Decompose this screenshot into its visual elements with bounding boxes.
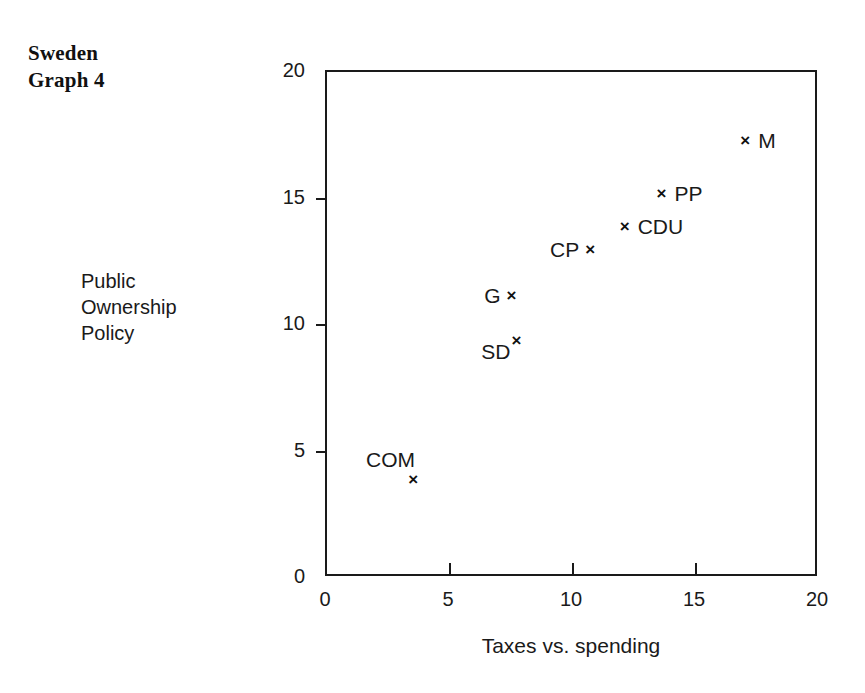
plot-area: ×COM×SD×G×CP×CDU×PP×M xyxy=(325,70,817,576)
data-point-marker-com: × xyxy=(408,471,418,488)
figure-title-line-2: Graph 4 xyxy=(28,67,105,94)
data-point-marker-cp: × xyxy=(585,241,595,258)
y-axis-title-line-3: Policy xyxy=(81,320,177,346)
x-axis-tick-label: 10 xyxy=(560,588,582,611)
data-point-label-cp: CP xyxy=(550,239,579,260)
y-axis-tick-label: 15 xyxy=(255,185,305,208)
data-point-label-cdu: CDU xyxy=(638,216,684,237)
y-axis-tick xyxy=(316,198,327,200)
x-axis-tick xyxy=(449,563,451,574)
figure-title: Sweden Graph 4 xyxy=(28,40,105,94)
x-axis-tick-label: 0 xyxy=(319,588,330,611)
y-axis-title-line-2: Ownership xyxy=(81,294,177,320)
data-point-label-pp: PP xyxy=(675,183,703,204)
data-point-marker-cdu: × xyxy=(620,218,630,235)
y-axis-tick xyxy=(316,324,327,326)
y-axis-tick-label: 10 xyxy=(255,312,305,335)
x-axis-tick-label: 20 xyxy=(806,588,828,611)
x-axis-tick-label: 5 xyxy=(442,588,453,611)
y-axis-tick xyxy=(316,451,327,453)
data-point-marker-g: × xyxy=(507,286,517,303)
data-point-label-sd: SD xyxy=(481,341,510,362)
y-axis-title-line-1: Public xyxy=(81,268,177,294)
data-point-marker-sd: × xyxy=(511,332,521,349)
y-axis-tick-label: 20 xyxy=(255,59,305,82)
data-point-marker-pp: × xyxy=(657,185,667,202)
scatter-plot-figure: Sweden Graph 4 Public Ownership Policy T… xyxy=(0,0,865,693)
x-axis-title: Taxes vs. spending xyxy=(325,634,817,658)
data-point-label-m: M xyxy=(758,130,776,151)
x-axis-tick xyxy=(572,563,574,574)
x-axis-tick-label: 15 xyxy=(683,588,705,611)
figure-title-line-1: Sweden xyxy=(28,40,105,67)
y-axis-tick-label: 0 xyxy=(255,565,305,588)
y-axis-title: Public Ownership Policy xyxy=(81,268,177,346)
y-axis-tick-label: 5 xyxy=(255,438,305,461)
x-axis-tick xyxy=(695,563,697,574)
data-point-label-g: G xyxy=(484,284,500,305)
data-point-marker-m: × xyxy=(740,132,750,149)
data-point-label-com: COM xyxy=(366,449,415,470)
